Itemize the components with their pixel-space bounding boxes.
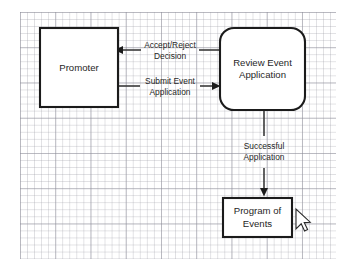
- node-promoter[interactable]: Promoter: [40, 28, 118, 107]
- edge-label-submit-line1: Submit Event: [145, 76, 195, 86]
- mouse-cursor: [296, 209, 310, 231]
- flow-diagram: Accept/Reject Decision Submit Event Appl…: [0, 0, 349, 273]
- node-promoter-label: Promoter: [59, 62, 99, 73]
- edge-label-accept-reject-line1: Accept/Reject: [144, 40, 196, 50]
- edge-label-successful-line2: Application: [244, 152, 285, 162]
- node-program-of-events-label-line1: Program of: [234, 205, 282, 216]
- cursor-arrow-icon: [296, 209, 310, 231]
- edge-label-accept-reject-line2: Decision: [154, 51, 186, 61]
- edge-accept-reject-decision: Accept/Reject Decision: [115, 40, 221, 61]
- node-review-event-application-label-line1: Review Event: [233, 57, 292, 68]
- edge-submit-event-application: Submit Event Application: [118, 76, 221, 97]
- node-program-of-events-label-line2: Events: [243, 218, 273, 229]
- node-review-event-application[interactable]: Review Event Application: [220, 28, 305, 110]
- node-program-of-events[interactable]: Program of Events: [223, 198, 292, 237]
- arrow-head-down-icon: [260, 188, 268, 197]
- edge-label-submit-line2: Application: [150, 87, 191, 97]
- edge-label-successful-line1: Successful: [244, 141, 285, 151]
- node-review-event-application-label-line2: Application: [239, 69, 286, 80]
- edge-successful-application: Successful Application: [244, 110, 285, 197]
- diagram-canvas: Accept/Reject Decision Submit Event Appl…: [0, 0, 349, 273]
